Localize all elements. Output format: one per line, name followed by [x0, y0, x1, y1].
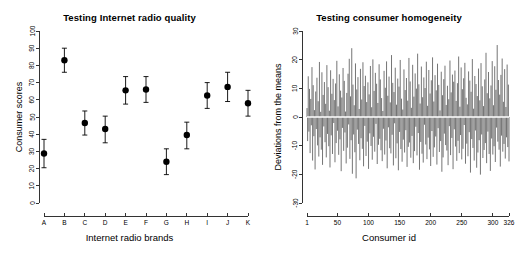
y-tick-label-left: 50 — [29, 113, 36, 121]
x-tick-label-right: 300 — [487, 219, 498, 226]
x-tick-label-left: H — [184, 219, 189, 226]
x-tick-label-left: G — [164, 219, 169, 226]
plot-area-right: 3020100-10-20-30150100150200250300326 — [259, 0, 519, 253]
y-tick-label-left: 40 — [29, 130, 36, 138]
x-tick-label-right: 326 — [504, 219, 515, 226]
y-tick-label-right: -10 — [292, 141, 299, 151]
data-point-marker — [102, 126, 108, 132]
chart-panel-internet-radio-quality: Testing Internet radio quality Consumer … — [0, 0, 259, 253]
x-tick-label-left: I — [206, 219, 208, 226]
data-point-marker — [163, 159, 169, 165]
y-tick-label-right: -30 — [292, 198, 299, 208]
y-tick-label-right: 30 — [292, 27, 299, 35]
data-point-marker — [184, 132, 190, 138]
x-tick-label-right: 50 — [334, 219, 342, 226]
y-tick-label-right: 20 — [292, 56, 299, 64]
data-point-marker — [204, 92, 210, 98]
chart-panel-consumer-homogeneity: Testing consumer homogeneity Deviations … — [259, 0, 519, 253]
x-tick-label-right: 1 — [305, 219, 309, 226]
data-point-marker — [245, 100, 251, 106]
x-tick-label-left: F — [144, 219, 148, 226]
x-tick-label-left: B — [62, 219, 66, 226]
data-point-marker — [122, 87, 128, 93]
y-tick-label-left: 0 — [29, 201, 36, 205]
x-tick-label-right: 100 — [363, 219, 374, 226]
data-point-marker — [143, 86, 149, 92]
data-point-marker — [82, 120, 88, 126]
spike-series — [307, 45, 509, 178]
x-tick-label-left: C — [82, 219, 87, 226]
data-point-marker — [224, 84, 230, 90]
y-tick-label-left: 70 — [29, 79, 36, 87]
y-tick-label-left: 30 — [29, 147, 36, 155]
y-tick-label-left: 60 — [29, 96, 36, 104]
y-tick-label-left: 20 — [29, 165, 36, 173]
plot-area-left: 0102030405060708090100ABCDEFGHIJK — [0, 0, 259, 253]
x-tick-label-left: E — [123, 219, 128, 226]
y-tick-label-left: 90 — [29, 44, 36, 52]
y-tick-label-left: 10 — [29, 182, 36, 190]
x-tick-label-left: K — [246, 219, 251, 226]
y-tick-label-left: 80 — [29, 61, 36, 69]
y-tick-label-right: -20 — [292, 169, 299, 179]
x-tick-label-right: 200 — [425, 219, 436, 226]
y-tick-label-right: 0 — [292, 115, 299, 119]
x-tick-label-left: J — [226, 219, 229, 226]
data-point-marker — [61, 57, 67, 63]
data-point-marker — [41, 150, 47, 156]
y-tick-label-left: 100 — [29, 25, 36, 36]
x-tick-label-left: A — [42, 219, 47, 226]
x-tick-label-right: 250 — [456, 219, 467, 226]
figure-canvas: Testing Internet radio quality Consumer … — [0, 0, 519, 253]
y-tick-label-right: 10 — [292, 84, 299, 92]
x-tick-label-right: 150 — [394, 219, 405, 226]
x-tick-label-left: D — [103, 219, 108, 226]
